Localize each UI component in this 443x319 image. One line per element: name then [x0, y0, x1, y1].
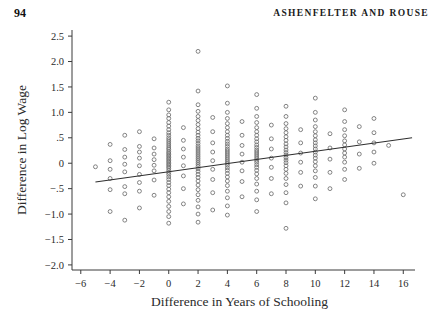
data-point [167, 210, 171, 214]
data-point [108, 159, 112, 163]
data-point [225, 184, 229, 188]
data-point [181, 155, 185, 159]
x-tick-label: 8 [283, 278, 288, 289]
data-point [299, 160, 303, 164]
data-point [123, 192, 127, 196]
data-point [167, 108, 171, 112]
data-point [313, 110, 317, 114]
data-point [152, 146, 156, 150]
data-point [255, 93, 259, 97]
data-point [269, 147, 273, 151]
data-point [313, 118, 317, 122]
data-point [94, 165, 98, 169]
data-point [299, 184, 303, 188]
data-point [196, 193, 200, 197]
data-point [211, 150, 215, 154]
x-tick-label: 6 [254, 278, 259, 289]
data-point [313, 164, 317, 168]
data-point [108, 142, 112, 146]
data-point [269, 177, 273, 181]
data-point [225, 122, 229, 126]
data-point [255, 126, 259, 130]
data-point [299, 128, 303, 132]
data-point [284, 104, 288, 108]
data-point [357, 140, 361, 144]
data-point [167, 204, 171, 208]
data-point [240, 169, 244, 173]
data-point [196, 103, 200, 107]
data-point [211, 130, 215, 134]
y-tick-label: 2.0 [51, 56, 64, 67]
y-tick-label: −1.0 [45, 209, 64, 220]
x-tick-label: 12 [339, 278, 350, 289]
data-points-group [94, 49, 406, 230]
x-tick-label: 2 [195, 278, 200, 289]
data-point [343, 134, 347, 138]
data-point [225, 126, 229, 130]
data-point [255, 182, 259, 186]
data-point [313, 96, 317, 100]
data-point [240, 180, 244, 184]
data-point [284, 131, 288, 135]
data-point [255, 189, 259, 193]
figure-page: 94 ASHENFELTER AND ROUSE −6−4−2024681012… [0, 0, 443, 319]
data-point [167, 199, 171, 203]
x-tick-label: −6 [75, 278, 86, 289]
data-point [196, 114, 200, 118]
data-point [284, 191, 288, 195]
data-point [123, 170, 127, 174]
data-point [255, 114, 259, 118]
data-point [313, 134, 317, 138]
data-point [284, 201, 288, 205]
y-tick-label: 1.0 [51, 107, 64, 118]
data-point [137, 164, 141, 168]
data-point [225, 196, 229, 200]
data-point [240, 195, 244, 199]
y-tick-label: 1.5 [51, 82, 64, 93]
data-point [167, 215, 171, 219]
data-point [240, 120, 244, 124]
data-point [167, 100, 171, 104]
data-point [313, 130, 317, 134]
x-tick-label: 14 [369, 278, 380, 289]
data-point [284, 122, 288, 126]
data-point [225, 84, 229, 88]
data-point [211, 191, 215, 195]
data-point [152, 152, 156, 156]
data-point [372, 150, 376, 154]
x-tick-label: 10 [310, 278, 321, 289]
data-point [240, 152, 244, 156]
data-point [211, 208, 215, 212]
data-point [225, 179, 229, 183]
data-point [284, 183, 288, 187]
data-point [269, 123, 273, 127]
data-point [343, 128, 347, 132]
data-point [196, 89, 200, 93]
data-point [152, 169, 156, 173]
data-point [343, 178, 347, 182]
scatter-figure: −6−4−202468101214162.52.01.51.0.50−.5−1.… [0, 0, 443, 319]
data-point [152, 158, 156, 162]
data-point [269, 165, 273, 169]
data-point [372, 117, 376, 121]
x-tick-label: −4 [105, 278, 117, 289]
data-point [225, 110, 229, 114]
data-point [167, 195, 171, 199]
data-point [328, 187, 332, 191]
data-point [137, 150, 141, 154]
data-point [181, 187, 185, 191]
data-point [357, 152, 361, 156]
data-point [108, 210, 112, 214]
data-point [299, 141, 303, 145]
x-tick-label: −2 [134, 278, 145, 289]
data-point [225, 189, 229, 193]
data-point [123, 185, 127, 189]
y-tick-label: 0 [59, 158, 64, 169]
data-point [343, 143, 347, 147]
data-point [357, 166, 361, 170]
data-point [211, 159, 215, 163]
data-point [343, 151, 347, 155]
data-point [196, 220, 200, 224]
data-point [372, 131, 376, 135]
data-point [123, 218, 127, 222]
